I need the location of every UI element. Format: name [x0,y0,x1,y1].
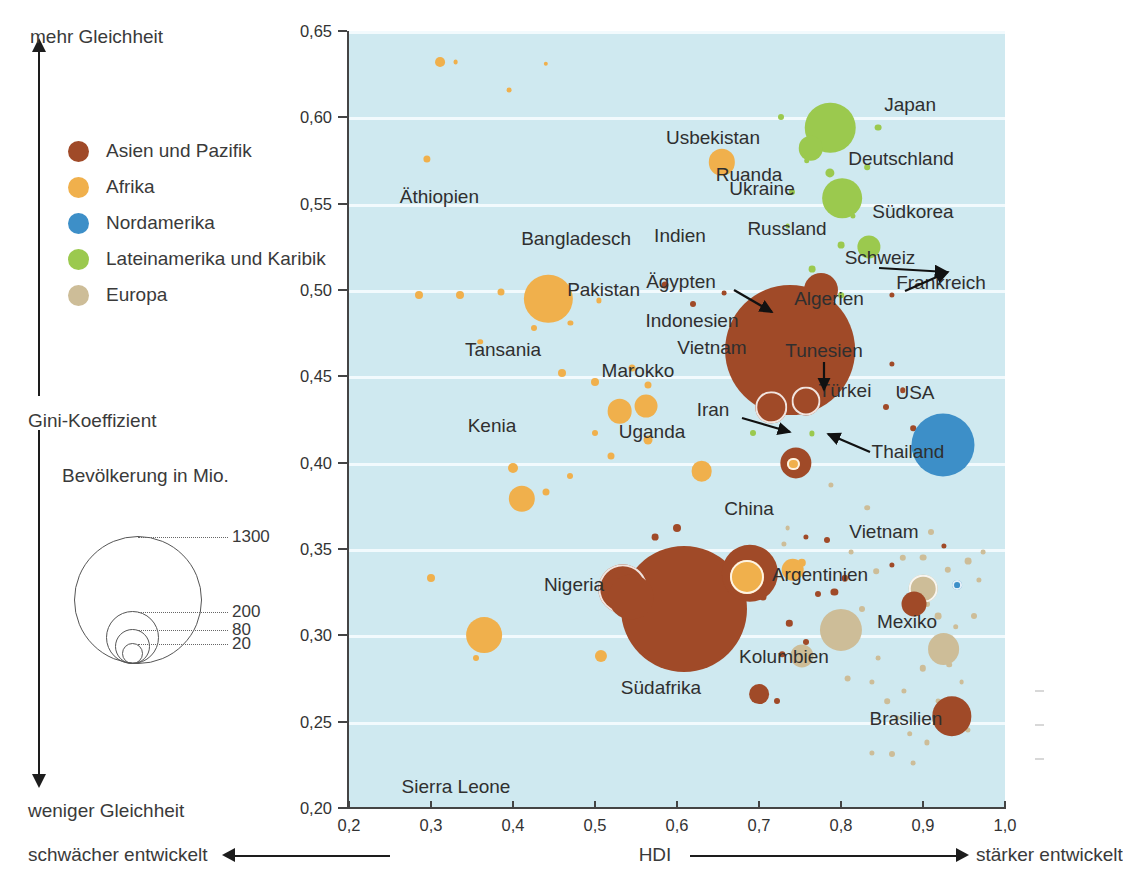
crop-mark [1035,724,1044,726]
bubble[interactable] [848,550,853,555]
bubble[interactable] [883,404,889,410]
bubble[interactable] [889,562,894,567]
bubble[interactable] [721,291,726,296]
bubble[interactable] [809,266,816,273]
bubble[interactable] [829,483,834,488]
country-label: Indien [654,226,706,245]
bubble[interactable] [925,740,930,745]
bubble[interactable] [497,288,504,295]
bubble[interactable] [423,155,430,162]
bubble[interactable] [889,751,895,757]
bubble[interactable] [928,529,934,535]
bubble[interactable] [870,750,875,755]
bubble[interactable] [781,541,786,546]
bubble-sierra-leone[interactable] [435,57,445,67]
bubble-mexiko[interactable] [822,179,862,219]
bubble[interactable] [567,473,573,479]
bubble[interactable] [531,325,537,331]
bubble[interactable] [874,124,881,131]
bubble[interactable] [544,62,548,66]
bubble[interactable] [815,591,821,597]
bubble-aegypten[interactable] [730,560,764,594]
y-axis-tick-mark [338,721,347,723]
bubble-schweiz[interactable] [953,580,963,590]
legend-item-lateinamerika-und-karibik[interactable]: Lateinamerika und Karibik [68,244,326,274]
bubble[interactable] [971,613,977,619]
bubble[interactable] [899,554,905,560]
bubble-usbekistan[interactable] [749,684,769,704]
y-axis-tick-mark [338,30,347,32]
bubble[interactable] [889,293,894,298]
bubble[interactable] [453,60,458,65]
y-axis-tick-label: 0,40 [282,453,332,472]
bubble[interactable] [959,680,964,685]
bubble[interactable] [902,688,907,693]
bubble-nigeria[interactable] [524,274,572,322]
bubble[interactable] [415,291,423,299]
bubble[interactable] [673,524,681,532]
bubble-marokko[interactable] [691,461,712,482]
bubble[interactable] [645,381,652,388]
bubble[interactable] [456,291,464,299]
bubble[interactable] [542,489,549,496]
bubble[interactable] [810,431,815,436]
bubble[interactable] [506,87,511,92]
bubble-deutschland[interactable] [928,633,960,665]
bubble-tansania[interactable] [509,486,535,512]
bubble-aethiopien[interactable] [466,617,502,653]
y-axis-tick-label: 0,35 [282,540,332,559]
bubble-kenia[interactable] [607,399,632,424]
bubble[interactable] [838,242,845,249]
size-legend-value: 20 [232,634,251,654]
bubble[interactable] [690,301,696,307]
bubble[interactable] [889,362,894,367]
bubble[interactable] [825,168,834,177]
bubble[interactable] [785,526,790,531]
country-label: Algerien [794,289,864,308]
bubble[interactable] [803,534,808,539]
bubble[interactable] [864,505,870,511]
bubble[interactable] [592,430,598,436]
bubble[interactable] [778,114,784,120]
bubble[interactable] [920,554,927,561]
bubble-iran[interactable] [756,392,787,423]
bubble[interactable] [774,698,780,704]
bubble[interactable] [831,589,838,596]
bubble-bangladesch[interactable] [609,575,654,620]
bubble[interactable] [568,320,573,325]
bubble[interactable] [941,543,946,548]
bubble[interactable] [508,463,518,473]
bubble[interactable] [870,679,875,684]
bubble[interactable] [976,577,981,582]
bubble[interactable] [884,698,890,704]
bubble[interactable] [558,369,566,377]
bubble[interactable] [911,761,916,766]
bubble[interactable] [944,567,950,573]
bubble[interactable] [844,675,851,682]
y-axis-tick-label: 0,20 [282,799,332,818]
bubble[interactable] [473,655,479,661]
bubble[interactable] [608,452,615,459]
bubble[interactable] [786,620,792,626]
bubble[interactable] [824,537,830,543]
bubble[interactable] [965,558,972,565]
bubble[interactable] [907,731,913,737]
x-axis-tick-label: 0,4 [502,816,525,835]
bubble[interactable] [920,665,926,671]
bubble[interactable] [980,550,985,555]
bubble[interactable] [953,624,959,630]
bubble-uganda[interactable] [634,394,657,417]
bubble[interactable] [427,574,435,582]
x-axis-arrow-left-icon [222,848,235,862]
bubble[interactable] [875,655,880,660]
bubble-thailand[interactable] [791,386,820,415]
bubble[interactable] [591,378,599,386]
bubble[interactable] [859,606,865,612]
legend-item-asien-und-pazifik[interactable]: Asien und Pazifik [68,136,326,166]
bubble[interactable] [750,430,756,436]
bubble-ruanda[interactable] [595,650,607,662]
bubble-kolumbien[interactable] [798,136,822,160]
bubble[interactable] [651,534,658,541]
x-axis-tick-label: 0,5 [584,816,607,835]
bubble[interactable] [873,569,879,575]
